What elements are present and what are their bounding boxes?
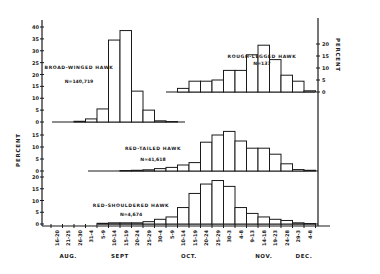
y-tick-label: 40 [32,24,39,30]
y-tick-label: 5 [322,77,326,83]
histogram-bar [109,223,121,224]
x-tick-label: 4-8 [307,229,313,239]
y-tick-label: 15 [32,186,39,192]
histogram-bar [293,81,305,92]
x-tick-label: 4-8 [238,229,244,239]
x-tick-label: 10-14 [180,229,186,246]
histogram-bar [281,220,293,224]
y-tick-label: 0 [322,89,326,95]
month-label: OCT. [181,253,197,259]
y-tick-label: 20 [32,174,39,180]
histogram-bar [189,81,201,92]
x-tick-label: 16-20 [54,229,60,246]
y-tick-label: 20 [322,41,329,47]
histogram-bar [281,75,293,92]
y-tick-label: 35 [32,36,39,42]
y-tick-label: 20 [32,72,39,78]
histogram-bars [52,31,318,224]
histogram-bar [212,80,224,92]
histogram-bar [178,165,190,171]
month-label: DEC. [296,253,313,259]
histogram-bar [293,223,305,224]
histogram-bar [143,222,155,224]
month-label: SEPT [111,253,129,259]
y-tick-label: 0 [36,119,40,125]
histogram-bar [97,223,109,224]
y-tick-label: 5 [36,156,40,162]
histogram-bar [132,91,144,122]
left-y-axis-title: PERCENT [15,133,21,167]
hawk-migration-histograms: 05101520253035400510152005101505101520 B… [0,0,380,274]
histogram-bar [304,170,316,171]
histogram-bar [178,208,190,224]
histogram-bar [224,131,236,171]
histogram-bar [155,219,167,224]
histogram-bar [166,167,178,171]
histogram-bar [258,45,270,92]
y-tick-label: 0 [36,221,40,227]
histogram-bar [235,208,247,224]
x-tick-label: 25-29 [215,229,221,246]
x-tick-label: 29-3 [295,229,301,242]
histogram-bar [97,109,109,122]
histogram-bar [166,217,178,224]
histogram-bar [201,184,213,224]
y-tick-label: 5 [36,107,40,113]
histogram-bar [258,148,270,171]
histogram-bar [201,81,213,92]
month-label: AUG. [59,253,77,259]
histogram-bar [224,186,236,224]
histogram-bar [86,119,98,122]
series-name-label: ROUGH-LEGGED HAWK [228,54,297,59]
y-tick-label: 10 [32,144,39,150]
x-tick-label: 30-4 [157,229,163,242]
histogram-bar [189,193,201,224]
histogram-bar [270,154,282,171]
series-n-label: N=140,719 [65,79,94,84]
series-name-label: RED-SHOULDERED HAWK [93,203,169,208]
histogram-bar [224,70,236,92]
histogram-bar [281,164,293,171]
right-y-axis-title: PERCENT [335,38,341,72]
x-tick-label: 5-9 [100,229,106,239]
histogram-bar [178,88,190,92]
histogram-bar [143,170,155,171]
month-label: NOV. [255,253,272,259]
histogram-bar [247,213,259,224]
axes: 05101520253035400510152005101505101520 [32,18,330,228]
x-tick-label: 30-3 [226,229,232,242]
histogram-bar [132,170,144,171]
y-tick-label: 25 [32,60,39,66]
histogram-bar [258,217,270,224]
histogram-bar [212,181,224,224]
histogram-bar [155,121,167,122]
histogram-bar [201,142,213,171]
x-tick-label: 15-19 [123,229,129,246]
histogram-bar [109,40,121,122]
y-tick-label: 10 [32,95,39,101]
x-tick-label: 31-4 [88,229,94,242]
y-tick-label: 10 [32,198,39,204]
x-tick-label: 20-24 [134,229,140,246]
histogram-bar [120,31,132,122]
x-tick-label: 5-9 [169,229,175,239]
histogram-bar [304,91,316,92]
y-tick-label: 15 [322,53,329,59]
x-tick-label: 20-24 [203,229,209,246]
x-tick-label: 26-30 [77,229,83,246]
series-n-label: N=41,618 [140,157,165,162]
x-tick-label: 21-25 [65,229,71,246]
histogram-bar [270,219,282,224]
histogram-bar [212,135,224,171]
histogram-bar [155,169,167,171]
x-tick-label: 24-28 [284,229,290,246]
y-tick-label: 15 [32,83,39,89]
series-name-label: BROAD-WINGED HAWK [45,65,114,70]
series-n-label: N=137 [253,61,270,66]
y-tick-label: 10 [322,65,329,71]
series-name-label: RED-TAILED HAWK [125,146,181,151]
x-tick-label: 9-13 [249,229,255,242]
x-tick-label: 15-19 [192,229,198,246]
x-tick-label: 19-23 [272,229,278,246]
histogram-bar [247,148,259,171]
